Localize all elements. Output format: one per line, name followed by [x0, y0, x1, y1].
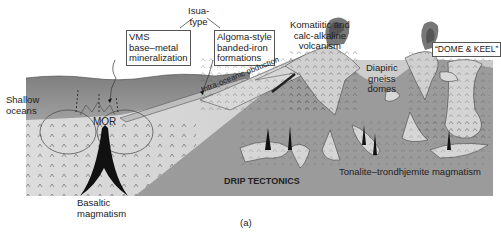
diapiric-gneiss-label: Diapiric gneiss domes — [366, 63, 398, 95]
isua-type-label: Isua- type — [188, 6, 209, 27]
basaltic-magmatism-label: Basaltic magmatism — [77, 198, 126, 219]
panel-label: (a) — [240, 218, 252, 229]
shallow-oceans-label: Shallow oceans — [6, 95, 39, 116]
dome-keel-label-box: “DOME & KEEL” — [432, 42, 501, 57]
komatiitic-label: Komatiitic and calc-alkaline volcanism — [290, 20, 350, 52]
mor-label: MOR — [93, 117, 116, 128]
vms-label-box: VMS base–metal mineralization — [126, 30, 191, 66]
drip-tectonics-label: DRIP TECTONICS — [224, 176, 300, 187]
tonalite-label: Tonalite–trondhjemite magmatism — [339, 167, 481, 178]
